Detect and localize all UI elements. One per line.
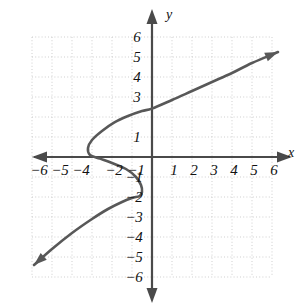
x-tick-label: −4 bbox=[72, 163, 90, 178]
y-tick-label: −5 bbox=[125, 250, 143, 265]
x-tick-label: −2 bbox=[105, 163, 123, 178]
y-tick-label: −6 bbox=[125, 270, 143, 285]
y-tick-label: −4 bbox=[125, 230, 143, 245]
x-tick-label: 1 bbox=[165, 163, 183, 178]
x-tick-label: 6 bbox=[265, 163, 283, 178]
x-tick-label: −5 bbox=[51, 163, 69, 178]
y-tick-label: 5 bbox=[128, 50, 146, 65]
y-axis-top-arrowhead bbox=[147, 9, 158, 24]
y-tick-label: −1 bbox=[125, 170, 143, 185]
y-axis-label: y bbox=[166, 8, 172, 22]
x-tick-label: 5 bbox=[245, 163, 263, 178]
y-tick-label: −3 bbox=[125, 210, 143, 225]
axes bbox=[32, 9, 292, 303]
y-tick-label: −2 bbox=[125, 190, 143, 205]
y-tick-label: 3 bbox=[128, 90, 146, 105]
y-tick-label: 1 bbox=[128, 130, 146, 145]
curve-end-arrowhead bbox=[264, 52, 278, 61]
x-tick-label: −6 bbox=[30, 163, 48, 178]
x-tick-label: 2 bbox=[185, 163, 203, 178]
graph-figure: y x −6−5−4−2−112345665431−1−2−3−4−5−6 bbox=[0, 0, 296, 305]
x-axis-left-arrowhead bbox=[32, 152, 47, 163]
curve-path bbox=[34, 52, 278, 265]
x-tick-label: 4 bbox=[225, 163, 243, 178]
coordinate-plane-svg bbox=[0, 0, 296, 305]
y-tick-label: 6 bbox=[128, 30, 146, 45]
x-tick-label: 3 bbox=[205, 163, 223, 178]
y-axis-bottom-arrowhead bbox=[147, 288, 158, 303]
x-axis-label: x bbox=[288, 146, 294, 160]
y-tick-label: 4 bbox=[128, 70, 146, 85]
plotted-curve bbox=[34, 52, 278, 265]
